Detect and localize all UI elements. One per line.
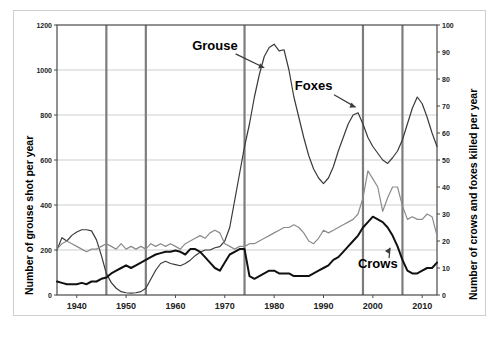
right-tick-label: 60 <box>442 130 450 137</box>
right-tick-label: 10 <box>442 265 450 272</box>
annotation-label-grouse: Grouse <box>192 38 238 53</box>
x-tick-label: 2010 <box>412 301 432 311</box>
chart-figure: 020040060080010001200 010203040506070809… <box>0 0 500 338</box>
right-axis-title: Number of crows and foxes killed per yea… <box>467 89 479 300</box>
right-tick-label: 50 <box>442 157 450 164</box>
right-tick-label: 90 <box>442 49 450 56</box>
left-tick-label: 800 <box>40 112 52 119</box>
left-tick-label: 0 <box>48 292 52 299</box>
left-tick-label: 200 <box>40 247 52 254</box>
x-tick-label: 2000 <box>363 301 383 311</box>
chart-canvas: 020040060080010001200 010203040506070809… <box>0 0 500 338</box>
x-tick-label: 1990 <box>313 301 333 311</box>
x-tick-label: 1970 <box>215 301 235 311</box>
left-axis-title: Number of grouse shot per year <box>23 136 35 295</box>
right-tick-label: 80 <box>442 76 450 83</box>
x-tick-label: 1940 <box>67 301 87 311</box>
x-tick-label: 1950 <box>116 301 136 311</box>
right-tick-label: 30 <box>442 211 450 218</box>
x-tick-label: 1960 <box>165 301 185 311</box>
left-tick-label: 400 <box>40 202 52 209</box>
annotation-label-foxes: Foxes <box>295 78 333 93</box>
right-tick-label: 40 <box>442 184 450 191</box>
right-tick-label: 0 <box>442 292 446 299</box>
left-tick-label: 1000 <box>36 67 52 74</box>
left-tick-label: 600 <box>40 157 52 164</box>
right-tick-label: 100 <box>442 22 454 29</box>
annotation-label-crows: Crows <box>358 256 398 271</box>
right-tick-label: 70 <box>442 103 450 110</box>
left-tick-label: 1200 <box>36 22 52 29</box>
x-tick-label: 1980 <box>264 301 284 311</box>
canvas-background <box>0 0 500 338</box>
right-tick-label: 20 <box>442 238 450 245</box>
